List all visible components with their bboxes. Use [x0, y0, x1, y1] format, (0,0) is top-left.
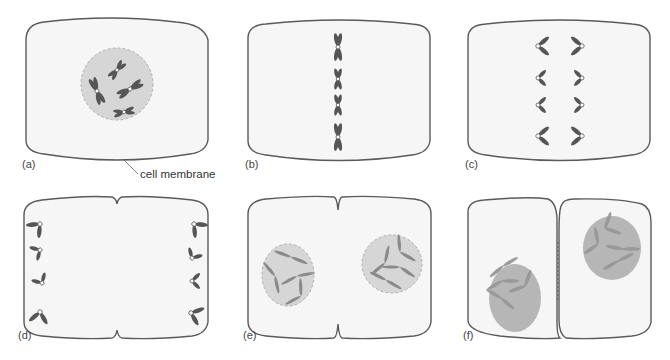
panel-c: (c) — [465, 20, 650, 170]
chromatid — [623, 248, 640, 251]
panel-label-b: (b) — [245, 158, 258, 170]
cell-membrane — [468, 20, 650, 161]
panel-e: (e) — [243, 196, 431, 341]
panel-b: (b) — [245, 20, 430, 170]
chromatid — [502, 280, 519, 283]
panel-label-f: (f) — [463, 329, 473, 341]
cell-membrane-leader-line — [124, 160, 138, 174]
panel-f: (f) — [463, 198, 651, 341]
daughter-nucleus — [489, 264, 541, 332]
panel-a: cell membrane (a) — [22, 18, 215, 180]
cell-membrane-label: cell membrane — [140, 168, 215, 180]
panel-label-a: (a) — [22, 158, 35, 170]
panel-label-e: (e) — [243, 329, 256, 341]
cell-membrane — [24, 196, 208, 338]
panel-label-c: (c) — [465, 158, 478, 170]
mitosis-diagram: cell membrane (a) (b) (c) — [0, 0, 670, 360]
panel-label-d: (d) — [18, 329, 31, 341]
panel-d: (d) — [18, 196, 210, 341]
